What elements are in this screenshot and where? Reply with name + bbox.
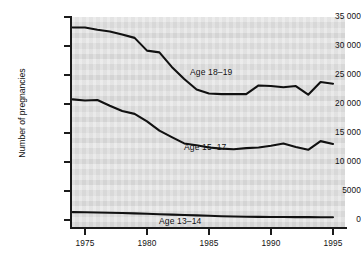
y-tick-label: 25 000: [299, 69, 361, 79]
y-tick-label: 10 000: [299, 156, 361, 166]
x-tick-label: 1985: [187, 238, 231, 248]
y-tick-mark: [64, 74, 71, 75]
x-tick-mark: [84, 229, 85, 235]
series-line: [73, 27, 333, 94]
y-tick-mark: [64, 132, 71, 133]
y-tick-mark: [64, 190, 71, 191]
series-line: [73, 212, 333, 217]
x-tick-label: 1980: [125, 238, 169, 248]
chart-figure: 0500010 00015 00020 00025 00030 00035 00…: [0, 0, 361, 272]
y-axis-line: [70, 16, 72, 229]
y-tick-mark: [64, 161, 71, 162]
series-label: Age 15–17: [184, 142, 226, 152]
x-tick-mark: [146, 229, 147, 235]
x-tick-mark: [208, 229, 209, 235]
x-tick-mark: [332, 229, 333, 235]
y-tick-mark: [64, 45, 71, 46]
y-tick-mark: [64, 103, 71, 104]
y-tick-label: 0: [299, 214, 361, 224]
y-tick-label: 35 000: [299, 11, 361, 21]
y-tick-label: 15 000: [299, 127, 361, 137]
y-tick-label: 30 000: [299, 40, 361, 50]
y-tick-mark: [64, 16, 71, 17]
series-label: Age 13–14: [159, 216, 201, 226]
series-label: Age 18–19: [190, 67, 232, 77]
y-tick-label: 5000: [299, 185, 361, 195]
y-axis-title: Number of pregnancies: [17, 43, 27, 183]
x-tick-label: 1975: [63, 238, 107, 248]
x-tick-label: 1990: [249, 238, 293, 248]
x-tick-label: 1995: [311, 238, 355, 248]
y-tick-label: 20 000: [299, 98, 361, 108]
y-tick-mark: [64, 219, 71, 220]
x-tick-mark: [270, 229, 271, 235]
